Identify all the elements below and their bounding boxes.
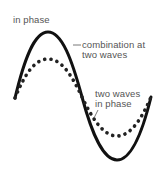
component-label-line2: in phase bbox=[95, 99, 140, 109]
combination-label: combination at two waves bbox=[82, 40, 145, 60]
combination-label-line2: two waves bbox=[82, 50, 145, 60]
inphase-leader-line bbox=[94, 110, 98, 118]
wave-diagram bbox=[0, 0, 164, 170]
title-label: in phase bbox=[13, 15, 50, 25]
component-label: two waves in phase bbox=[95, 89, 140, 109]
